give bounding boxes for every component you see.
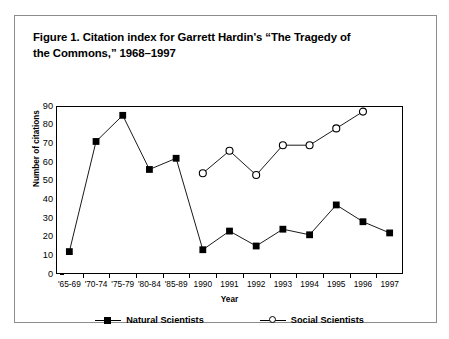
- data-point-natural-scientists: [360, 218, 367, 225]
- x-tick-mark: [216, 274, 217, 278]
- x-tick-mark: [323, 274, 324, 278]
- y-tick-label: 0: [31, 270, 53, 279]
- x-tick-mark: [350, 274, 351, 278]
- figure-title: Figure 1. Citation index for Garrett Har…: [33, 30, 403, 61]
- data-point-social-scientists: [333, 125, 340, 132]
- legend-label-natural-scientists: Natural Scientists: [126, 315, 204, 325]
- figure-frame: Figure 1. Citation index for Garrett Har…: [14, 15, 437, 323]
- data-point-social-scientists: [199, 170, 206, 177]
- y-tick-label: 10: [31, 251, 53, 260]
- y-tick-label: 60: [31, 158, 53, 167]
- data-point-natural-scientists: [226, 228, 233, 235]
- x-tick-mark: [376, 274, 377, 278]
- open-circle-marker-icon: [260, 315, 286, 325]
- x-tick-mark: [270, 274, 271, 278]
- x-tick-mark: [136, 274, 137, 278]
- x-tick-mark: [109, 274, 110, 278]
- chart-legend: Natural Scientists Social Scientists: [56, 315, 403, 325]
- data-point-natural-scientists: [66, 248, 73, 255]
- x-axis-title: Year: [56, 295, 403, 304]
- plot-lines: [56, 106, 403, 274]
- filled-square-marker-icon: [95, 315, 121, 325]
- x-tick-mark: [189, 274, 190, 278]
- data-point-natural-scientists: [386, 230, 393, 237]
- y-tick-label: 40: [31, 195, 53, 204]
- data-point-natural-scientists: [199, 246, 206, 253]
- data-point-natural-scientists: [93, 138, 100, 145]
- y-tick-label: 50: [31, 176, 53, 185]
- y-tick-label: 30: [31, 214, 53, 223]
- x-tick-mark: [83, 274, 84, 278]
- data-point-natural-scientists: [173, 155, 180, 162]
- y-tick-mark: [60, 274, 64, 275]
- y-tick-label: 80: [31, 120, 53, 129]
- y-tick-label: 20: [31, 232, 53, 241]
- y-tick-label: 70: [31, 139, 53, 148]
- x-tick-mark: [243, 274, 244, 278]
- data-point-natural-scientists: [333, 202, 340, 209]
- legend-item-social-scientists: Social Scientists: [260, 315, 364, 325]
- y-axis-ticks: 0102030405060708090: [25, 74, 53, 274]
- data-point-natural-scientists: [119, 112, 126, 119]
- y-tick-label: 90: [31, 102, 53, 111]
- data-point-social-scientists: [306, 142, 313, 149]
- legend-item-natural-scientists: Natural Scientists: [95, 315, 204, 325]
- data-point-social-scientists: [359, 108, 366, 115]
- data-point-social-scientists: [279, 142, 286, 149]
- data-point-social-scientists: [226, 147, 233, 154]
- x-tick-mark: [163, 274, 164, 278]
- data-point-social-scientists: [253, 172, 260, 179]
- data-point-natural-scientists: [306, 231, 313, 238]
- data-point-natural-scientists: [253, 243, 260, 250]
- data-point-natural-scientists: [146, 166, 153, 173]
- data-point-natural-scientists: [279, 226, 286, 233]
- citation-chart: Number of citations 0102030405060708090 …: [15, 74, 438, 324]
- x-tick-label: 1997: [360, 279, 420, 289]
- legend-label-social-scientists: Social Scientists: [291, 315, 364, 325]
- x-tick-mark: [296, 274, 297, 278]
